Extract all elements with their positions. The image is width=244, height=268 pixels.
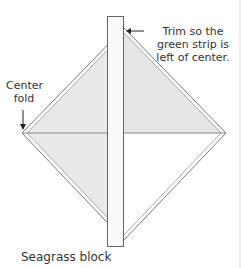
caption: Seagrass block <box>21 251 111 264</box>
trim-note: Trim so the green strip is left of cente… <box>147 25 239 64</box>
green-strip <box>108 17 124 247</box>
center-fold-label: Center fold <box>6 79 42 105</box>
